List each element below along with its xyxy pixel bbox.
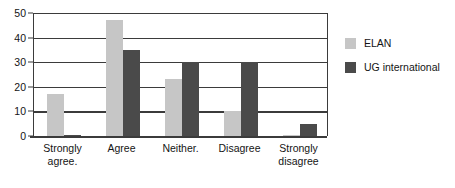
x-axis-label-line: disagree xyxy=(269,155,328,168)
x-axis-label: Stronglydisagree xyxy=(269,142,328,168)
bar-group xyxy=(270,13,329,136)
legend-swatch xyxy=(345,62,356,73)
bar xyxy=(106,20,123,136)
x-axis-label-line: agree. xyxy=(33,155,92,168)
x-axis-label: Stronglyagree. xyxy=(33,142,92,168)
bar xyxy=(165,79,182,136)
plot-area xyxy=(33,13,328,136)
bar-chart: 01020304050 Stronglyagree.AgreeNeither.D… xyxy=(0,0,455,188)
bar xyxy=(283,135,300,136)
bar xyxy=(224,111,241,136)
bar xyxy=(64,135,81,136)
bar-group xyxy=(152,13,211,136)
bar-group xyxy=(93,13,152,136)
legend-item: ELAN xyxy=(345,38,455,49)
legend-swatch xyxy=(345,38,356,49)
bar-group xyxy=(34,13,93,136)
bar xyxy=(123,50,140,136)
x-axis-label-line: Neither. xyxy=(151,142,210,155)
x-axis-label: Agree xyxy=(92,142,151,155)
x-axis-label: Neither. xyxy=(151,142,210,155)
x-axis-category-labels: Stronglyagree.AgreeNeither.DisagreeStron… xyxy=(33,142,328,186)
bar xyxy=(47,94,64,136)
bar-group xyxy=(211,13,270,136)
legend-item: UG international xyxy=(345,62,455,73)
bar xyxy=(241,62,258,136)
x-axis-label-line: Agree xyxy=(92,142,151,155)
chart-legend: ELANUG international xyxy=(345,38,455,86)
x-axis-label-line: Strongly xyxy=(269,142,328,155)
legend-label: UG international xyxy=(364,62,440,73)
bars-layer xyxy=(34,13,327,136)
x-axis-label-line: Strongly xyxy=(33,142,92,155)
bar xyxy=(300,124,317,136)
x-axis-label-line: Disagree xyxy=(210,142,269,155)
x-axis-label: Disagree xyxy=(210,142,269,155)
legend-label: ELAN xyxy=(364,38,391,49)
axis-baseline xyxy=(30,136,327,138)
bar xyxy=(182,62,199,136)
